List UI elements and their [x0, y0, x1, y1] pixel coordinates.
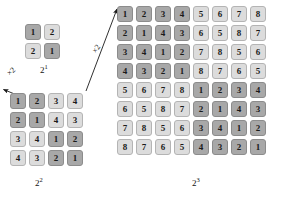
latin-cell: 5 [250, 63, 266, 79]
latin-cell: 8 [250, 6, 266, 22]
latin-cell: 4 [174, 6, 190, 22]
latin-cell: 8 [155, 101, 171, 117]
latin-cell: 3 [10, 131, 26, 147]
latin-cell: 1 [67, 150, 83, 166]
latin-cell: 1 [212, 101, 228, 117]
latin-cell: 7 [155, 82, 171, 98]
caption-2e1: 21 [40, 63, 48, 75]
latin-cell: 2 [212, 82, 228, 98]
latin-cell: 4 [250, 82, 266, 98]
arrow-label-large: ×2 [90, 43, 102, 55]
latin-cell: 4 [136, 44, 152, 60]
latin-cell: 1 [44, 43, 60, 59]
latin-cell: 3 [67, 112, 83, 128]
latin-cell: 7 [231, 6, 247, 22]
latin-cell: 1 [174, 63, 190, 79]
latin-cell: 1 [29, 112, 45, 128]
latin-cell: 2 [67, 131, 83, 147]
latin-cell: 5 [174, 139, 190, 155]
latin-cell: 4 [155, 25, 171, 41]
latin-cell: 8 [231, 25, 247, 41]
latin-cell: 8 [193, 63, 209, 79]
latin-cell: 8 [117, 139, 133, 155]
latin-cell: 1 [48, 131, 64, 147]
latin-cell: 3 [136, 63, 152, 79]
latin-cell: 3 [231, 82, 247, 98]
latin-cell: 6 [155, 139, 171, 155]
latin-cell: 3 [155, 6, 171, 22]
latin-cell: 3 [29, 150, 45, 166]
latin-square-2e3: 1234567821436587341278564321876556781234… [117, 6, 266, 155]
latin-cell: 7 [117, 120, 133, 136]
arrow-label-small: ×2 [5, 65, 17, 77]
latin-cell: 2 [136, 6, 152, 22]
latin-cell: 1 [250, 139, 266, 155]
latin-cell: 1 [10, 93, 26, 109]
latin-cell: 4 [231, 101, 247, 117]
latin-cell: 5 [117, 82, 133, 98]
latin-cell: 4 [29, 131, 45, 147]
latin-cell: 4 [193, 139, 209, 155]
latin-cell: 2 [48, 150, 64, 166]
latin-cell: 3 [250, 101, 266, 117]
latin-cell: 8 [174, 82, 190, 98]
latin-cell: 5 [155, 120, 171, 136]
latin-cell: 2 [25, 43, 41, 59]
latin-cell: 5 [136, 101, 152, 117]
latin-cell: 1 [25, 24, 41, 40]
latin-cell: 7 [250, 25, 266, 41]
latin-cell: 1 [231, 120, 247, 136]
latin-cell: 4 [212, 120, 228, 136]
latin-cell: 7 [136, 139, 152, 155]
latin-cell: 1 [193, 82, 209, 98]
latin-cell: 3 [48, 93, 64, 109]
latin-cell: 2 [155, 63, 171, 79]
latin-cell: 7 [193, 44, 209, 60]
latin-cell: 4 [67, 93, 83, 109]
latin-cell: 4 [48, 112, 64, 128]
latin-square-2e2: 1234214334124321 [10, 93, 83, 166]
latin-cell: 2 [193, 101, 209, 117]
latin-cell: 6 [250, 44, 266, 60]
latin-cell: 2 [117, 25, 133, 41]
latin-cell: 2 [10, 112, 26, 128]
latin-cell: 5 [212, 25, 228, 41]
latin-cell: 5 [193, 6, 209, 22]
latin-cell: 8 [212, 44, 228, 60]
latin-cell: 1 [155, 44, 171, 60]
caption-2e1-exponent: 1 [45, 63, 48, 70]
latin-cell: 4 [10, 150, 26, 166]
latin-square-doubling-figure: 1221 1234214334124321 123456782143658734… [0, 0, 284, 198]
latin-cell: 6 [212, 6, 228, 22]
latin-cell: 2 [250, 120, 266, 136]
caption-2e3-exponent: 3 [197, 176, 200, 183]
latin-cell: 1 [117, 6, 133, 22]
latin-cell: 5 [231, 44, 247, 60]
latin-cell: 7 [174, 101, 190, 117]
latin-cell: 7 [212, 63, 228, 79]
latin-cell: 3 [117, 44, 133, 60]
caption-2e2: 22 [35, 176, 43, 188]
latin-cell: 2 [44, 24, 60, 40]
latin-square-2e1: 1221 [25, 24, 60, 59]
latin-cell: 2 [231, 139, 247, 155]
latin-cell: 6 [174, 120, 190, 136]
latin-cell: 6 [193, 25, 209, 41]
caption-2e3: 23 [192, 176, 200, 188]
latin-cell: 6 [231, 63, 247, 79]
latin-cell: 3 [193, 120, 209, 136]
latin-cell: 2 [174, 44, 190, 60]
latin-cell: 3 [174, 25, 190, 41]
latin-cell: 6 [117, 101, 133, 117]
caption-2e2-exponent: 2 [40, 176, 43, 183]
latin-cell: 3 [212, 139, 228, 155]
latin-cell: 4 [117, 63, 133, 79]
latin-cell: 1 [136, 25, 152, 41]
latin-cell: 8 [136, 120, 152, 136]
latin-cell: 2 [29, 93, 45, 109]
latin-cell: 6 [136, 82, 152, 98]
